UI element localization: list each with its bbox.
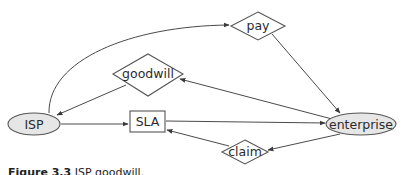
edge-enterprise-claim <box>268 134 340 150</box>
figure-caption-text: ISP goodwill. <box>75 166 144 175</box>
figure-caption: Figure 3.3 ISP goodwill. <box>8 166 144 175</box>
node-enterprise-label: enterprise <box>329 117 393 132</box>
edge-claim-sla <box>167 130 229 146</box>
node-isp: ISP <box>8 113 60 135</box>
node-pay: pay <box>231 12 285 40</box>
node-goodwill-label: goodwill <box>122 66 174 81</box>
node-claim-label: claim <box>228 144 262 159</box>
node-sla: SLA <box>130 111 165 132</box>
figure-caption-prefix: Figure 3.3 <box>8 166 71 175</box>
node-isp-label: ISP <box>24 117 44 132</box>
node-claim: claim <box>222 140 268 164</box>
edge-sla-enterprise <box>166 121 325 123</box>
edge-pay-enterprise <box>272 34 340 113</box>
edge-enterprise-goodwill <box>180 79 332 119</box>
diagram-canvas: ISP SLA enterprise goodwill pay claim <box>0 0 406 175</box>
node-goodwill: goodwill <box>113 54 183 96</box>
edges <box>49 25 340 150</box>
node-enterprise: enterprise <box>326 113 396 135</box>
edge-goodwill-isp <box>57 85 126 115</box>
node-sla-label: SLA <box>136 114 160 129</box>
node-pay-label: pay <box>247 18 271 33</box>
